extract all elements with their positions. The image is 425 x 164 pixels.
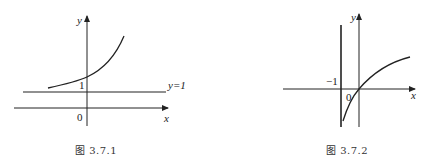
figures-canvas: y x 0 1 y=1 y x 0 −1 — [0, 0, 425, 164]
x-axis-label: x — [410, 89, 416, 101]
x-tick-label: −1 — [326, 75, 338, 87]
exponential-curve — [48, 36, 124, 88]
origin-label: 0 — [77, 111, 83, 123]
y-axis-label: y — [350, 11, 356, 23]
asymptote-label: y=1 — [167, 79, 186, 91]
x-axis-label: x — [163, 112, 169, 124]
figure-2-caption: 图 3.7.2 — [326, 142, 368, 157]
figure-1: y x 0 1 y=1 — [14, 14, 186, 126]
origin-label: 0 — [346, 91, 352, 103]
y-axis-label: y — [76, 14, 82, 26]
figure-1-caption: 图 3.7.1 — [75, 142, 117, 157]
figure-2: y x 0 −1 — [283, 11, 416, 127]
y-tick-label: 1 — [79, 79, 85, 91]
